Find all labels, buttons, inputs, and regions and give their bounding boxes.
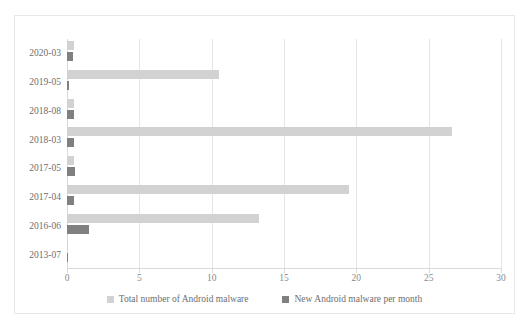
category-row: 2018-08	[67, 97, 501, 126]
chart-frame: 2020-032019-052018-082018-032017-052017-…	[14, 15, 515, 314]
x-tick-label: 25	[424, 273, 434, 283]
bar-new-android-malware-per-month	[67, 225, 89, 234]
y-axis-category-label: 2020-03	[29, 48, 61, 58]
bar-new-android-malware-per-month	[67, 167, 75, 176]
bar-total-android-malware	[67, 185, 349, 194]
y-axis-category-label: 2019-05	[29, 77, 61, 87]
y-axis-category-label: 2013-07	[29, 250, 61, 260]
bar-new-android-malware-per-month	[67, 81, 69, 90]
category-row: 2013-07	[67, 240, 501, 269]
x-tick-label: 15	[279, 273, 289, 283]
square-swatch	[107, 296, 114, 303]
legend-item: New Android malware per month	[282, 294, 422, 304]
category-row: 2018-03	[67, 125, 501, 154]
bar-new-android-malware-per-month	[67, 196, 74, 205]
bar-total-android-malware	[67, 70, 219, 79]
x-tick-label: 5	[137, 273, 142, 283]
bar-new-android-malware-per-month	[67, 110, 74, 119]
legend-label: New Android malware per month	[294, 294, 422, 304]
category-row: 2020-03	[67, 39, 501, 68]
y-axis-category-label: 2018-08	[29, 106, 61, 116]
legend-item: Total number of Android malware	[107, 294, 249, 304]
y-axis-category-label: 2017-04	[29, 192, 61, 202]
y-axis-category-label: 2018-03	[29, 135, 61, 145]
x-tick-label: 30	[496, 273, 506, 283]
bar-total-android-malware	[67, 242, 68, 251]
bar-total-android-malware	[67, 99, 74, 108]
x-tick-label: 0	[65, 273, 70, 283]
bar-new-android-malware-per-month	[67, 253, 68, 262]
bar-total-android-malware	[67, 214, 259, 223]
category-row: 2017-04	[67, 183, 501, 212]
plot-area: 2020-032019-052018-082018-032017-052017-…	[67, 39, 501, 269]
gridline-30	[501, 39, 502, 269]
category-row: 2016-06	[67, 212, 501, 241]
bar-total-android-malware	[67, 41, 74, 50]
x-tick-label: 20	[352, 273, 362, 283]
y-axis-category-label: 2017-05	[29, 163, 61, 173]
category-row: 2017-05	[67, 154, 501, 183]
bar-total-android-malware	[67, 127, 452, 136]
legend-label: Total number of Android malware	[119, 294, 249, 304]
category-row: 2019-05	[67, 68, 501, 97]
bar-new-android-malware-per-month	[67, 52, 73, 61]
x-tick-label: 10	[207, 273, 217, 283]
chart-legend: Total number of Android malwareNew Andro…	[15, 294, 514, 304]
square-swatch	[282, 296, 289, 303]
y-axis-category-label: 2016-06	[29, 221, 61, 231]
bar-new-android-malware-per-month	[67, 138, 74, 147]
bar-total-android-malware	[67, 156, 74, 165]
